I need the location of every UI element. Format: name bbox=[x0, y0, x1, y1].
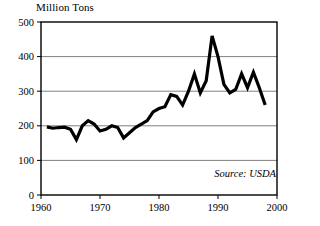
source-note: Source: USDA bbox=[214, 168, 276, 179]
x-tick-label: 1960 bbox=[31, 202, 52, 213]
y-tick-label: 500 bbox=[18, 17, 34, 28]
y-tick-label: 100 bbox=[18, 155, 34, 166]
y-tick-label: 300 bbox=[18, 86, 34, 97]
x-tick-label: 2000 bbox=[267, 202, 288, 213]
x-axis-ticks: 19601970198019902000 bbox=[31, 195, 288, 213]
y-tick-label: 200 bbox=[18, 120, 34, 131]
chart-container: Million Tons 0100200300400500 1960197019… bbox=[0, 0, 320, 226]
x-tick-label: 1980 bbox=[149, 202, 170, 213]
data-line bbox=[47, 36, 265, 140]
line-chart-plot: 0100200300400500 19601970198019902000 bbox=[0, 0, 320, 226]
y-tick-label: 0 bbox=[29, 190, 34, 201]
x-tick-label: 1970 bbox=[90, 202, 111, 213]
y-tick-label: 400 bbox=[18, 51, 34, 62]
data-series bbox=[47, 36, 265, 140]
x-tick-label: 1990 bbox=[208, 202, 229, 213]
y-axis-ticks: 0100200300400500 bbox=[18, 17, 41, 201]
